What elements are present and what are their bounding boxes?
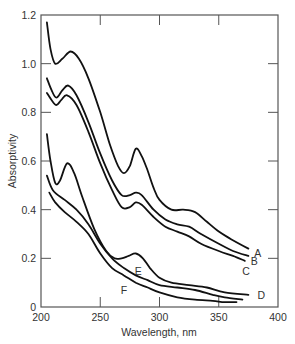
curve-a	[47, 22, 249, 248]
x-axis-label: Wavelength, nm	[121, 326, 197, 338]
curve-label-f: F	[121, 284, 127, 296]
x-tick-label: 400	[269, 311, 287, 323]
curve-label-e: E	[135, 265, 142, 277]
y-tick-label: 0.8	[21, 106, 36, 118]
plot-border	[41, 15, 278, 307]
curve-label-d: D	[258, 289, 266, 301]
curves	[47, 22, 249, 302]
plot-frame	[41, 15, 278, 307]
y-tick-label: 0	[30, 301, 36, 313]
curve-label-c: C	[242, 265, 250, 277]
x-tick-label: 250	[91, 311, 109, 323]
curve-e	[47, 176, 243, 300]
curve-c	[47, 93, 245, 261]
y-tick-label: 0.4	[21, 204, 36, 216]
y-tick-label: 1.0	[21, 58, 36, 70]
y-tick-label: 0.2	[21, 252, 36, 264]
x-tick-label: 350	[210, 311, 228, 323]
y-axis-label: Absorptivity	[6, 133, 18, 188]
y-tick-label: 0.6	[21, 155, 36, 167]
curve-d	[47, 134, 249, 295]
chart-canvas: 20025030035040000.20.40.60.81.01.2 ABCDE…	[0, 0, 295, 344]
y-tick-label: 1.2	[21, 9, 36, 21]
curve-label-b: B	[251, 255, 258, 267]
absorptivity-chart: 20025030035040000.20.40.60.81.01.2 ABCDE…	[0, 0, 295, 344]
x-tick-label: 300	[151, 311, 169, 323]
